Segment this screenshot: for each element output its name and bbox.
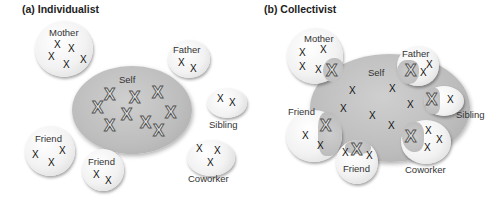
x-mark: X <box>369 111 376 121</box>
x-mark: X <box>48 158 55 168</box>
mother-label: Mother <box>304 33 334 44</box>
shared-self-x: X <box>320 117 331 134</box>
x-mark: X <box>48 52 55 62</box>
friend-label: Friend <box>88 156 115 167</box>
x-mark: X <box>436 135 443 145</box>
x-mark: X <box>425 126 432 136</box>
x-mark: X <box>59 146 66 156</box>
x-mark: X <box>54 40 61 50</box>
friend-label: Friend <box>35 133 62 144</box>
x-mark: X <box>340 104 347 114</box>
panel-title: (a) Individualist <box>22 3 99 15</box>
self-label: Self <box>119 74 135 85</box>
sibling-label: Sibling <box>456 109 485 120</box>
x-mark: X <box>388 121 395 131</box>
sibling-circle <box>207 88 247 118</box>
x-mark: X <box>342 148 349 158</box>
father-label: Father <box>402 48 429 59</box>
x-mark: X <box>93 170 100 180</box>
x-mark: X <box>389 84 396 94</box>
x-mark: X <box>68 44 75 54</box>
shared-self-x: X <box>405 128 416 145</box>
independent-self-x: X <box>152 84 163 101</box>
x-mark: X <box>315 65 322 75</box>
shared-self-x: X <box>326 62 337 79</box>
x-mark: X <box>196 144 203 154</box>
x-mark: X <box>366 151 373 161</box>
coworker-label: Coworker <box>405 164 446 175</box>
x-mark: X <box>217 94 224 104</box>
independent-self-x: X <box>92 99 103 116</box>
sibling-label: Sibling <box>209 119 238 130</box>
independent-self-x: X <box>153 122 164 139</box>
independent-self-x: X <box>104 117 115 134</box>
independent-self-x: X <box>165 104 176 121</box>
self-label: Self <box>368 67 384 78</box>
x-mark: X <box>63 60 70 70</box>
x-mark: X <box>302 131 309 141</box>
x-mark: X <box>207 158 214 168</box>
friend-label: Friend <box>288 106 315 117</box>
x-mark: X <box>420 68 427 78</box>
x-mark: X <box>424 143 431 153</box>
x-mark: X <box>32 150 39 160</box>
shared-self-x: X <box>405 62 416 79</box>
shared-self-x: X <box>351 141 362 158</box>
x-mark: X <box>178 58 185 68</box>
shared-self-x: X <box>426 91 437 108</box>
x-mark: X <box>214 146 221 156</box>
x-mark: X <box>447 95 454 105</box>
coworker-label: Coworker <box>188 173 229 184</box>
independent-self-x: X <box>104 86 115 103</box>
friend-label: Friend <box>343 163 370 174</box>
x-mark: X <box>426 60 433 70</box>
x-mark: X <box>80 55 87 65</box>
independent-self-x: X <box>140 114 151 131</box>
mother-label: Mother <box>49 27 79 38</box>
x-mark: X <box>105 176 112 186</box>
x-mark: X <box>299 62 306 72</box>
panel-title: (b) Collectivist <box>264 3 336 15</box>
x-mark: X <box>299 48 306 58</box>
x-mark: X <box>190 64 197 74</box>
x-mark: X <box>317 141 324 151</box>
x-mark: X <box>349 86 356 96</box>
x-mark: X <box>407 100 414 110</box>
x-mark: X <box>229 98 236 108</box>
independent-self-x: X <box>129 89 140 106</box>
independent-self-x: X <box>121 106 132 123</box>
x-mark: X <box>320 45 327 55</box>
father-label: Father <box>173 44 200 55</box>
